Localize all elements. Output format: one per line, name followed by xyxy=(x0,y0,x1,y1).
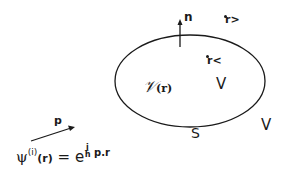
surface-label: S xyxy=(191,126,200,140)
equals-sign: = xyxy=(58,148,71,166)
exponent-fraction: iħ xyxy=(84,144,90,158)
interior-volume-label: V xyxy=(216,77,226,92)
momentum-label: p xyxy=(54,115,62,126)
exponent-dot-product: p.r xyxy=(94,147,110,158)
normal-vector-arrow xyxy=(178,19,183,47)
potential-argument: (r) xyxy=(156,82,172,95)
psi-symbol: ψ xyxy=(16,148,28,166)
psi-argument: (r) xyxy=(37,152,52,165)
potential-label: 𝒱(r) xyxy=(143,79,172,95)
point-outside-subscript: > xyxy=(230,13,239,26)
exponential-base: e xyxy=(75,148,84,166)
exterior-volume-label: V xyxy=(261,118,271,133)
incident-wave-equation: ψ(i)(r) = eiħ p.r xyxy=(16,144,110,165)
exponent: iħ p.r xyxy=(84,144,110,158)
momentum-arrow xyxy=(31,126,75,142)
point-inside-subscript: < xyxy=(212,54,221,67)
region-boundary-ellipse xyxy=(115,35,265,127)
point-inside-label: r< xyxy=(207,55,222,66)
psi-superscript: (i) xyxy=(28,147,38,157)
point-outside-label: r> xyxy=(225,14,240,25)
normal-label: n xyxy=(184,11,193,23)
